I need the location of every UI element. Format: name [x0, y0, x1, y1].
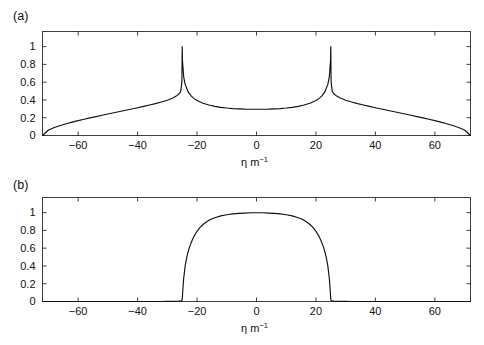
y-tick-label: 0.4 [20, 260, 35, 272]
data-curve [43, 213, 471, 302]
y-tick-label: 0.2 [20, 112, 35, 124]
axes-frame [43, 32, 471, 136]
x-tick-label: −20 [188, 139, 207, 151]
y-tick-label: 0 [29, 129, 35, 141]
y-tick-label: 0.4 [20, 94, 35, 106]
x-tick-label: 0 [253, 305, 259, 317]
x-tick-label: 20 [310, 305, 322, 317]
y-tick-label: 1 [29, 206, 35, 218]
x-tick-label: 0 [253, 139, 259, 151]
y-tick-label: 0.6 [20, 76, 35, 88]
x-tick-label: 40 [369, 305, 381, 317]
y-tick-label: 1 [29, 40, 35, 52]
panel-b: (b) −60−40−20020406000.20.40.60.81η m−1 [0, 170, 484, 345]
y-tick-label: 0.6 [20, 242, 35, 254]
y-tick-label: 0.2 [20, 278, 35, 290]
y-tick-label: 0 [29, 295, 35, 307]
x-axis-title: η m−1 [241, 155, 268, 168]
x-tick-label: −60 [69, 139, 88, 151]
x-tick-label: −40 [128, 139, 147, 151]
x-tick-label: −20 [188, 305, 207, 317]
x-tick-label: 20 [310, 139, 322, 151]
data-curve [43, 47, 471, 136]
x-tick-label: 60 [429, 139, 441, 151]
figure-container: (a) −60−40−20020406000.20.40.60.81η m−1 … [0, 0, 484, 345]
y-tick-label: 0.8 [20, 58, 35, 70]
x-tick-label: 40 [369, 139, 381, 151]
panel-a: (a) −60−40−20020406000.20.40.60.81η m−1 [0, 0, 484, 172]
x-tick-label: 60 [429, 305, 441, 317]
x-axis-title: η m−1 [241, 321, 268, 334]
x-tick-label: −60 [69, 305, 88, 317]
x-tick-label: −40 [128, 305, 147, 317]
y-tick-label: 0.8 [20, 224, 35, 236]
panel-b-plot: −60−40−20020406000.20.40.60.81η m−1 [0, 170, 484, 345]
panel-a-plot: −60−40−20020406000.20.40.60.81η m−1 [0, 0, 484, 172]
